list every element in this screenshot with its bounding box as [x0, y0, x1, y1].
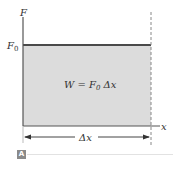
- x-axis-label: x: [161, 121, 167, 132]
- panel-divider: [27, 154, 173, 155]
- panel-tag: A: [17, 150, 26, 159]
- work-diagram: F x F0 W = F0 Δx Δx: [0, 0, 181, 176]
- y-axis-label: F: [19, 7, 28, 18]
- displacement-label: Δx: [78, 132, 92, 143]
- force-level-label: F0: [6, 40, 18, 53]
- arrowhead-left-icon: [24, 135, 31, 140]
- arrowhead-right-icon: [143, 135, 150, 140]
